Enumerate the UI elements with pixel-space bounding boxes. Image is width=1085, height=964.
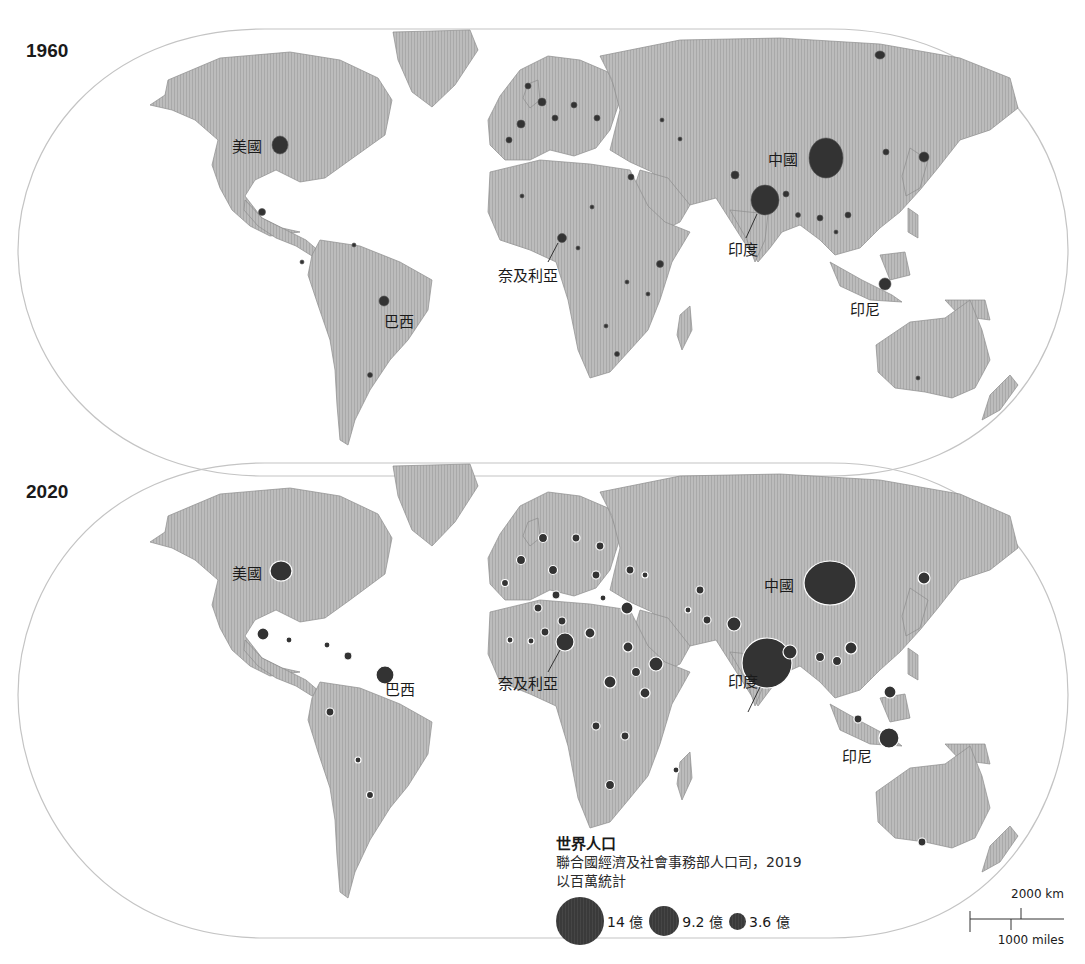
legend-item-large: 14 億	[556, 897, 643, 945]
label-brazil-2020: 巴西	[385, 678, 415, 699]
legend-item-small: 3.6 億	[729, 911, 790, 931]
label-indonesia-2020: 印尼	[842, 745, 872, 766]
legend: 世界人口 聯合國經濟及社會事務部人口司，2019 以百萬統計 14 億 9.2 …	[556, 832, 802, 945]
label-usa-2020: 美國	[232, 562, 262, 583]
bubble-large-icon	[556, 897, 604, 945]
bubble-small-icon	[729, 913, 746, 930]
label-usa-1960: 美國	[232, 135, 262, 156]
label-india-2020: 印度	[728, 670, 758, 691]
label-nigeria-2020: 奈及利亞	[498, 672, 558, 693]
label-nigeria-1960: 奈及利亞	[498, 264, 558, 285]
world-map-2020	[0, 450, 1085, 940]
label-china-2020: 中國	[764, 574, 794, 595]
bubble-medium-icon	[649, 906, 679, 936]
label-indonesia-1960: 印尼	[850, 298, 880, 319]
legend-source: 聯合國經濟及社會事務部人口司，2019	[556, 853, 802, 872]
landmasses	[150, 30, 1018, 445]
legend-items: 14 億 9.2 億 3.6 億	[556, 897, 802, 945]
legend-item-medium: 9.2 億	[649, 906, 723, 936]
label-china-1960: 中國	[768, 148, 798, 169]
scale-miles-label: 1000 miles	[998, 933, 1064, 947]
legend-title: 世界人口	[556, 832, 802, 853]
scale-bar: 2000 km 1000 miles	[968, 887, 1066, 947]
legend-unit: 以百萬統計	[556, 872, 802, 891]
world-map-1960	[0, 0, 1085, 480]
label-india-1960: 印度	[728, 238, 758, 259]
label-brazil-1960: 巴西	[384, 310, 414, 331]
